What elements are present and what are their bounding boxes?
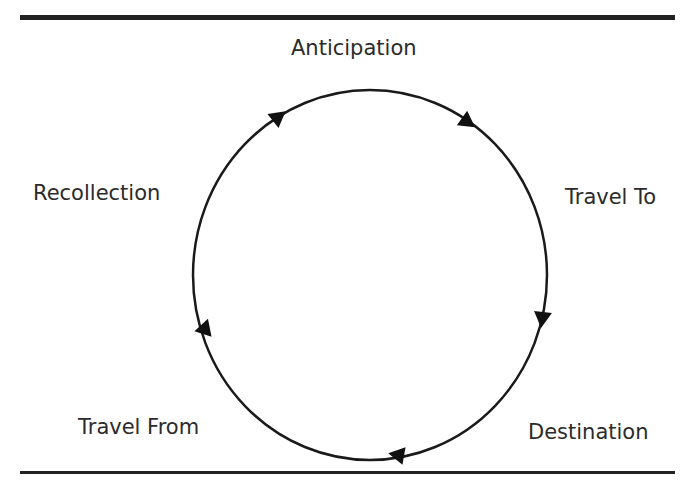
stage-label-travel-from: Travel From bbox=[78, 415, 199, 439]
cycle-diagram bbox=[0, 0, 699, 483]
stage-label-travel-to: Travel To bbox=[565, 185, 656, 209]
arrow-head-icon bbox=[532, 311, 552, 329]
stage-label-destination: Destination bbox=[528, 420, 649, 444]
stage-label-recollection: Recollection bbox=[33, 181, 160, 205]
cycle-ring bbox=[193, 90, 547, 460]
arrow-head-icon bbox=[267, 104, 291, 128]
arrow-head-icon bbox=[387, 444, 406, 465]
arrow-head-icon bbox=[457, 111, 480, 135]
stage-label-anticipation: Anticipation bbox=[291, 36, 417, 60]
